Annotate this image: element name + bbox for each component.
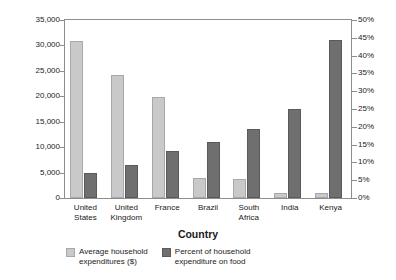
x-axis-tick-label: Kenya bbox=[302, 203, 360, 213]
bar-percent-expenditure-on-food bbox=[166, 151, 179, 198]
bar-group bbox=[65, 20, 106, 198]
y-axis-left-tick-label: 0 bbox=[4, 194, 60, 202]
bar-group bbox=[188, 20, 229, 198]
y-axis-right-tick-mark bbox=[352, 127, 357, 128]
y-axis-right-tick-mark bbox=[352, 73, 357, 74]
legend-swatch-icon bbox=[66, 248, 75, 257]
y-axis-right-tick-label: 50% bbox=[358, 16, 394, 24]
legend-label: Average household expenditures ($) bbox=[79, 247, 148, 267]
y-axis-right-tick-label: 20% bbox=[358, 123, 394, 131]
legend-item: Average household expenditures ($) bbox=[66, 247, 148, 267]
y-axis-right-tick-mark bbox=[352, 38, 357, 39]
y-axis-right-tick-label: 5% bbox=[358, 176, 394, 184]
bars-layer bbox=[65, 20, 351, 198]
y-axis-right-tick-mark bbox=[352, 109, 357, 110]
y-axis-left-tick-mark bbox=[59, 147, 64, 148]
bar-percent-expenditure-on-food bbox=[288, 109, 301, 198]
y-axis-right-tick-label: 35% bbox=[358, 69, 394, 77]
bar-percent-expenditure-on-food bbox=[247, 129, 260, 198]
y-axis-left-tick-label: 20,000 bbox=[4, 92, 60, 100]
y-axis-left-tick-label: 15,000 bbox=[4, 118, 60, 126]
bar-average-household-expenditures bbox=[111, 75, 124, 198]
y-axis-right-tick-label: 40% bbox=[358, 52, 394, 60]
bar-percent-expenditure-on-food bbox=[329, 40, 342, 198]
bar-average-household-expenditures bbox=[274, 193, 287, 198]
bar-average-household-expenditures bbox=[193, 178, 206, 198]
y-axis-left-tick-mark bbox=[59, 20, 64, 21]
y-axis-right-tick-label: 15% bbox=[358, 141, 394, 149]
y-axis-right-tick-mark bbox=[352, 91, 357, 92]
y-axis-right-tick-label: 25% bbox=[358, 105, 394, 113]
bar-group bbox=[147, 20, 188, 198]
bar-percent-expenditure-on-food bbox=[207, 142, 220, 198]
y-axis-left-tick-label: 5,000 bbox=[4, 169, 60, 177]
bar-percent-expenditure-on-food bbox=[125, 165, 138, 198]
y-axis-left-tick-mark bbox=[59, 71, 64, 72]
bar-group bbox=[106, 20, 147, 198]
y-axis-right-tick-label: 45% bbox=[358, 34, 394, 42]
y-axis-right-tick-mark bbox=[352, 20, 357, 21]
chart-figure: Household expenditures (constant 2005 $U… bbox=[0, 0, 396, 280]
y-axis-right-tick-mark bbox=[352, 145, 357, 146]
y-axis-right-tick-mark bbox=[352, 180, 357, 181]
legend-label: Percent of household expenditure on food bbox=[175, 247, 251, 267]
y-axis-right-tick-mark bbox=[352, 162, 357, 163]
bar-average-household-expenditures bbox=[315, 193, 328, 198]
y-axis-right-tick-mark bbox=[352, 198, 357, 199]
y-axis-right-tick-label: 10% bbox=[358, 158, 394, 166]
y-axis-left-tick-label: 30,000 bbox=[4, 41, 60, 49]
y-axis-right-tick-label: 30% bbox=[358, 87, 394, 95]
y-axis-left-tick-mark bbox=[59, 198, 64, 199]
bar-percent-expenditure-on-food bbox=[84, 173, 97, 198]
legend-swatch-icon bbox=[162, 248, 171, 257]
bar-average-household-expenditures bbox=[70, 41, 83, 198]
y-axis-left-tick-mark bbox=[59, 96, 64, 97]
bar-group bbox=[310, 20, 351, 198]
x-axis-title: Country bbox=[0, 228, 396, 240]
bar-average-household-expenditures bbox=[152, 97, 165, 198]
y-axis-left-tick-label: 25,000 bbox=[4, 67, 60, 75]
bar-group bbox=[228, 20, 269, 198]
y-axis-left-tick-mark bbox=[59, 173, 64, 174]
y-axis-right-tick-mark bbox=[352, 56, 357, 57]
y-axis-left-tick-mark bbox=[59, 45, 64, 46]
bar-group bbox=[269, 20, 310, 198]
y-axis-left-tick-label: 10,000 bbox=[4, 143, 60, 151]
y-axis-left-tick-label: 35,000 bbox=[4, 16, 60, 24]
y-axis-right-tick-label: 0% bbox=[358, 194, 394, 202]
legend-item: Percent of household expenditure on food bbox=[162, 247, 251, 267]
bar-average-household-expenditures bbox=[233, 179, 246, 198]
y-axis-left-tick-mark bbox=[59, 122, 64, 123]
chart-legend: Average household expenditures ($)Percen… bbox=[66, 247, 356, 267]
